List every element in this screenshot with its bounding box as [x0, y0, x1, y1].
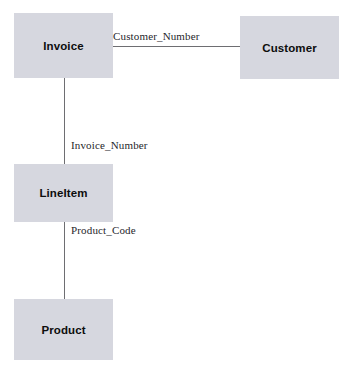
- entity-label-lineitem: LineItem: [39, 187, 87, 199]
- connector-invoice-customer: [113, 46, 240, 47]
- connector-invoice-lineitem: [64, 78, 65, 164]
- entity-label-invoice: Invoice: [43, 40, 83, 52]
- relationship-label-invoice-number: Invoice_Number: [71, 139, 148, 151]
- entity-box-invoice[interactable]: Invoice: [14, 13, 113, 78]
- entity-box-customer[interactable]: Customer: [240, 16, 339, 79]
- connector-lineitem-product: [64, 222, 65, 299]
- diagram-canvas: Invoice Customer LineItem Product Custom…: [0, 0, 348, 376]
- entity-label-product: Product: [41, 324, 85, 336]
- relationship-label-product-code: Product_Code: [71, 224, 136, 236]
- entity-label-customer: Customer: [262, 42, 316, 54]
- relationship-label-customer-number: Customer_Number: [113, 30, 200, 42]
- entity-box-lineitem[interactable]: LineItem: [14, 164, 113, 222]
- entity-box-product[interactable]: Product: [14, 299, 113, 360]
